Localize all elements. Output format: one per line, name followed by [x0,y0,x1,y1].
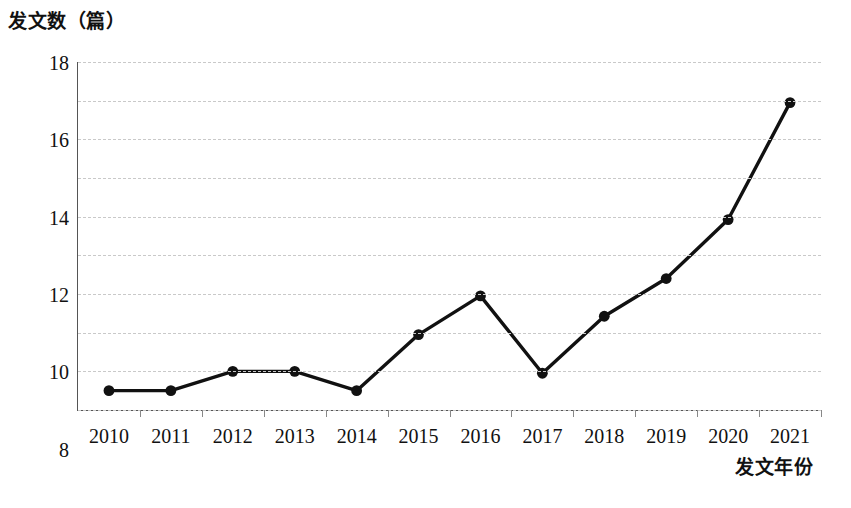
y-tick-label-12: 12 [9,285,69,305]
data-point-2016 [475,291,486,302]
x-tick-label-2019: 2019 [646,426,686,446]
y-tick-label-8: 8 [9,440,69,460]
x-tick-2017 [511,410,512,417]
y-axis-title: 发文数（篇） [8,6,125,33]
publication-count-line-chart: 发文数（篇） 024681012141618201020112012201320… [0,0,851,508]
x-tick-2020 [697,410,698,417]
data-point-2017 [537,368,548,379]
gridline-y-10: 10 [78,217,821,218]
x-tick-2019 [635,410,636,417]
x-tick-2012 [202,410,203,417]
x-tick-end [821,410,822,417]
x-tick-label-2014: 2014 [337,426,377,446]
x-tick-label-2021: 2021 [770,426,810,446]
data-point-2019 [661,273,672,284]
x-tick-label-2012: 2012 [213,426,253,446]
gridline-y-14: 14 [78,139,821,140]
data-point-2018 [599,311,610,322]
x-tick-label-2017: 2017 [522,426,562,446]
gridline-y-6: 6 [78,294,821,295]
data-point-2015 [413,329,424,340]
gridline-y-4: 4 [78,333,821,334]
plot-area: 0246810121416182010201120122013201420152… [77,62,821,411]
y-tick-label-10: 10 [9,362,69,382]
x-tick-label-2010: 2010 [89,426,129,446]
y-tick-label-14: 14 [9,208,69,228]
x-tick-2016 [450,410,451,417]
gridline-y-18: 18 [78,62,821,63]
data-point-2014 [351,385,362,396]
x-tick-label-2011: 2011 [151,426,190,446]
x-tick-2013 [264,410,265,417]
x-tick-2015 [388,410,389,417]
data-point-2011 [165,385,176,396]
y-tick-label-18: 18 [9,53,69,73]
x-axis-title: 发文年份 [735,452,813,479]
x-tick-label-2016: 2016 [460,426,500,446]
gridline-y-16: 16 [78,101,821,102]
data-point-2010 [104,385,115,396]
x-tick-label-2020: 2020 [708,426,748,446]
gridline-y-12: 12 [78,178,821,179]
x-tick-label-2018: 2018 [584,426,624,446]
x-tick-2014 [326,410,327,417]
y-tick-label-16: 16 [9,130,69,150]
data-point-2021 [785,97,796,108]
gridline-y-2: 2 [78,371,821,372]
gridline-y-8: 8 [78,255,821,256]
series-polyline [109,103,790,391]
x-tick-label-2013: 2013 [275,426,315,446]
x-tick-2021 [759,410,760,417]
series-line-publications [78,62,821,410]
x-tick-label-2015: 2015 [399,426,439,446]
x-tick-2018 [573,410,574,417]
x-tick-2011 [140,410,141,417]
